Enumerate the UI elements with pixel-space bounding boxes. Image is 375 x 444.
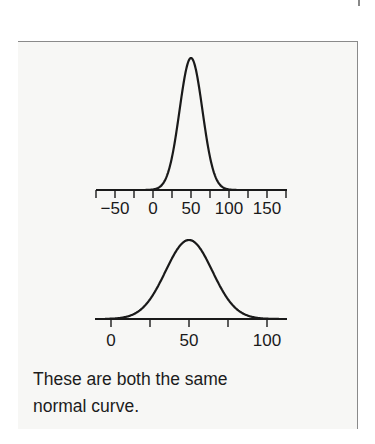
x-tick-label: 50 (180, 331, 199, 350)
x-tick-label: 100 (215, 199, 243, 218)
bottom-x-ticks (111, 319, 267, 327)
x-tick-label: 0 (148, 199, 157, 218)
bottom-normal-curve (105, 240, 281, 319)
caption-line-2: normal curve. (33, 393, 333, 420)
top-x-ticks (96, 190, 286, 198)
bottom-chart: 050100 (95, 240, 287, 350)
bottom-x-tick-labels: 050100 (106, 331, 281, 350)
x-tick-label: 100 (253, 331, 281, 350)
x-tick-label: 150 (253, 199, 281, 218)
top-x-tick-labels: −50050100150 (101, 199, 282, 218)
x-tick-label: 0 (106, 331, 115, 350)
x-tick-label: 50 (182, 199, 201, 218)
caption-line-1: These are both the same (33, 366, 333, 393)
caption: These are both the same normal curve. (33, 366, 333, 420)
top-normal-curve (106, 58, 281, 190)
x-tick-label: −50 (101, 199, 130, 218)
top-chart: −50050100150 (96, 58, 287, 218)
